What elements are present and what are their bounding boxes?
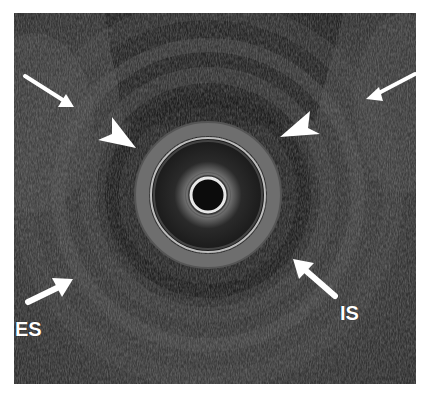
label-es: ES [15, 319, 42, 339]
probe-ring [191, 178, 225, 212]
ultrasound-image: ES IS [14, 13, 416, 384]
label-is: IS [340, 303, 359, 323]
